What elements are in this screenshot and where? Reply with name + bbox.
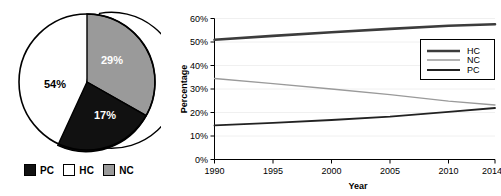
line-legend-label-pc: PC	[467, 65, 480, 75]
pie-chart-panel: 29% 17% 54% PC HC NC	[0, 0, 175, 196]
pie-legend-item-pc: PC	[24, 164, 54, 176]
pie-legend-swatch-hc	[63, 164, 75, 176]
pie-label-nc: 29%	[101, 54, 123, 66]
x-tick-1990: 1990	[204, 166, 224, 176]
y-tick-labels: 0% 10% 20% 30% 40% 50% 60%	[190, 14, 208, 165]
pie-legend-label-hc: HC	[79, 165, 94, 176]
series-line-pc	[215, 108, 496, 125]
y-tick-10: 10%	[190, 131, 208, 141]
y-tick-60: 60%	[190, 14, 208, 24]
pie-label-pc: 17%	[94, 109, 116, 121]
y-tick-40: 40%	[190, 61, 208, 71]
pie-legend-swatch-pc	[24, 164, 36, 176]
x-tick-1995: 1995	[263, 166, 283, 176]
x-tick-2005: 2005	[380, 166, 400, 176]
y-tick-50: 50%	[190, 37, 208, 47]
line-legend: HC NC PC	[421, 40, 495, 80]
pie-chart: 29% 17% 54%	[13, 8, 161, 156]
y-tick-30: 30%	[190, 84, 208, 94]
x-axis-title: Year	[348, 181, 368, 191]
pie-legend-swatch-nc	[103, 164, 115, 176]
line-chart: 0% 10% 20% 30% 40% 50% 60% 1990 1995 200…	[175, 0, 501, 196]
x-tick-labels: 1990 1995 2000 2005 2010 2014	[204, 166, 501, 176]
pie-label-hc: 54%	[44, 78, 66, 90]
y-tick-0: 0%	[195, 155, 208, 165]
series-line-nc	[215, 79, 496, 106]
line-chart-panel: 0% 10% 20% 30% 40% 50% 60% 1990 1995 200…	[175, 0, 501, 196]
y-axis-title: Percentage	[179, 65, 189, 114]
y-tick-20: 20%	[190, 108, 208, 118]
pie-legend: PC HC NC	[24, 164, 134, 176]
pie-legend-item-nc: NC	[103, 164, 134, 176]
x-tick-2014: 2014	[482, 166, 501, 176]
pie-legend-label-pc: PC	[40, 165, 54, 176]
x-tick-2010: 2010	[438, 166, 458, 176]
pie-legend-item-hc: HC	[63, 164, 94, 176]
x-axis	[215, 160, 496, 164]
pie-legend-label-nc: NC	[119, 165, 134, 176]
x-tick-2000: 2000	[321, 166, 341, 176]
figure-root: 29% 17% 54% PC HC NC	[0, 0, 501, 196]
series-line-hc	[215, 24, 496, 40]
line-legend-label-nc: NC	[467, 55, 480, 65]
